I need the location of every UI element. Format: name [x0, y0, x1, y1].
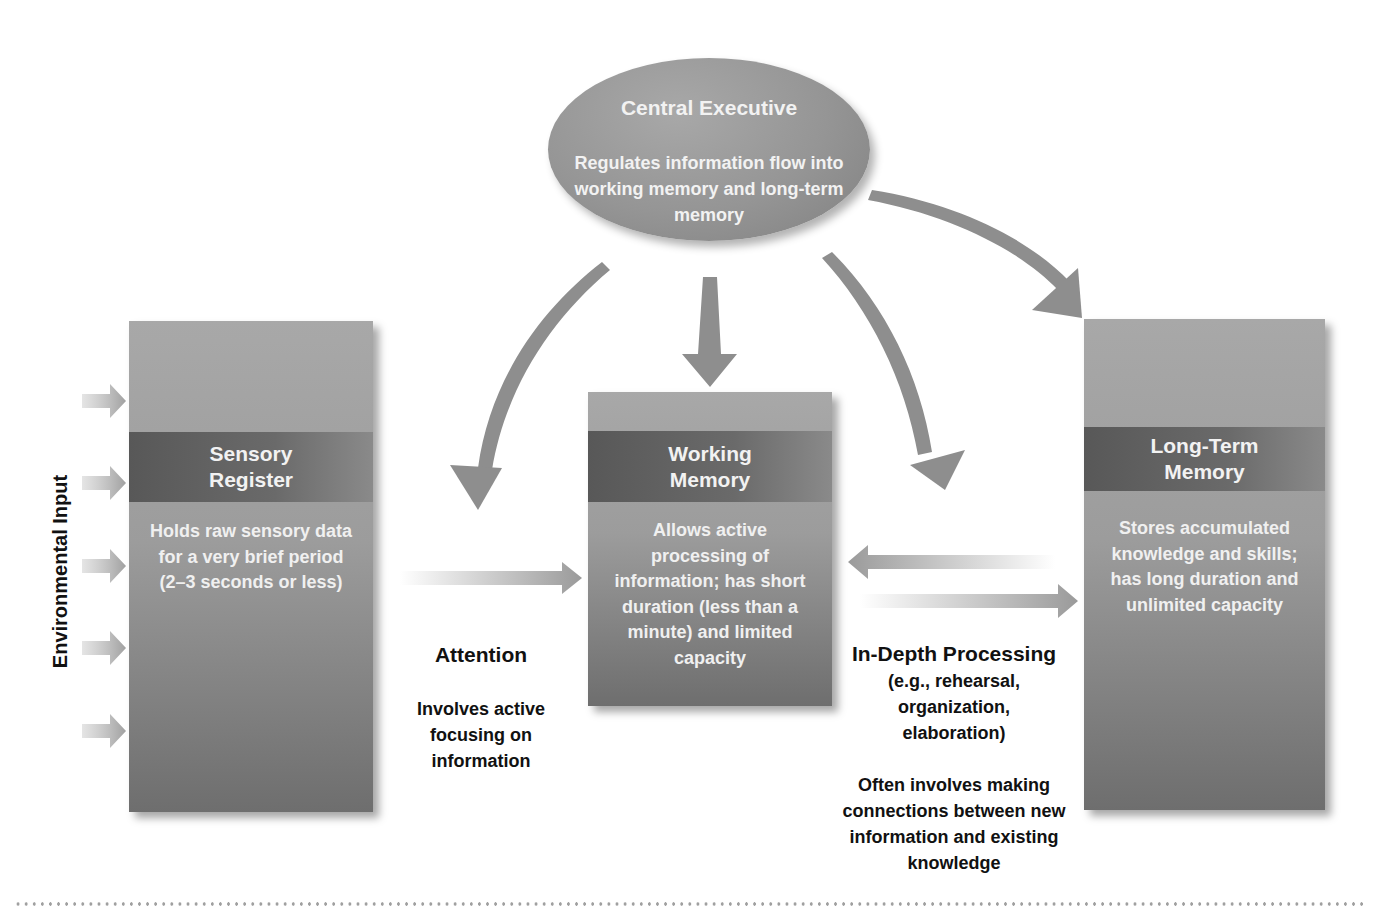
in-depth-processing-examples: (e.g., rehearsal, organization, elaborat…	[870, 668, 1038, 746]
storage-arrow-icon	[860, 584, 1078, 618]
title-line: Long-Term	[1084, 433, 1325, 459]
working-memory-description: Allows active processing of information;…	[608, 518, 812, 671]
long-term-memory-description: Stores accumulated knowledge and skills;…	[1096, 516, 1313, 618]
dotted-divider	[14, 902, 1368, 906]
title-line: Working	[588, 441, 832, 467]
central-executive-description: Regulates information flow into working …	[558, 150, 860, 228]
title-line: Memory	[1084, 459, 1325, 485]
working-memory-title: Working Memory	[588, 431, 832, 502]
input-arrow-icon	[82, 714, 126, 748]
environmental-input-text: Environmental Input	[49, 475, 71, 668]
input-arrow-icon	[82, 549, 126, 583]
title-line: Memory	[588, 467, 832, 493]
retrieval-arrow-icon	[848, 545, 1055, 579]
sensory-register-description: Holds raw sensory data for a very brief …	[147, 519, 355, 596]
input-arrow-icon	[82, 466, 126, 500]
title-line: Register	[129, 467, 373, 493]
central-executive-title: Central Executive	[548, 96, 870, 120]
in-depth-processing-description: Often involves making connections betwee…	[822, 772, 1086, 876]
working-memory-box: Working Memory Allows active processing …	[588, 392, 832, 706]
central-executive-node: Central Executive Regulates information …	[548, 58, 870, 241]
arrow-to-long-term-memory-icon	[868, 190, 1070, 290]
arrow-to-working-memory-icon	[682, 277, 737, 387]
long-term-memory-title: Long-Term Memory	[1084, 427, 1325, 491]
in-depth-processing-title: In-Depth Processing	[832, 642, 1076, 666]
environmental-input-arrows	[82, 384, 126, 748]
sensory-register-box: Sensory Register Holds raw sensory data …	[129, 321, 373, 812]
arrow-to-processing-icon	[822, 252, 932, 455]
attention-description: Involves active focusing on information	[400, 696, 562, 774]
attention-arrow-icon	[400, 562, 582, 594]
input-arrow-icon	[82, 384, 126, 418]
title-line: Sensory	[129, 441, 373, 467]
long-term-memory-box: Long-Term Memory Stores accumulated know…	[1084, 319, 1325, 810]
input-arrow-icon	[82, 631, 126, 665]
environmental-input-label: Environmental Input	[49, 452, 72, 692]
attention-title: Attention	[400, 643, 562, 667]
sensory-register-title: Sensory Register	[129, 432, 373, 502]
